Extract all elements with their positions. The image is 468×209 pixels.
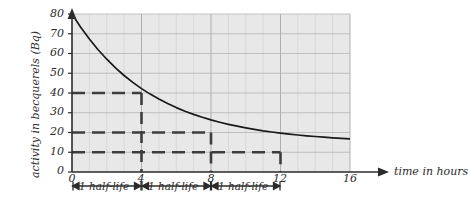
- y-axis-title: activity in becquerels (Bq): [30, 31, 41, 178]
- y-tick-60: 60: [42, 47, 64, 58]
- y-tick-40: 40: [42, 87, 64, 98]
- x-tick-12: 12: [270, 173, 290, 184]
- y-tick-50: 50: [42, 67, 64, 78]
- half-life-label-1: 1 half-life: [79, 181, 129, 192]
- half-life-label-2: 1 half-life: [148, 181, 198, 192]
- y-tick-30: 30: [42, 106, 64, 117]
- y-tick-70: 70: [42, 28, 64, 39]
- y-tick-0: 0: [42, 165, 64, 176]
- x-axis-title: time in hours: [394, 166, 468, 177]
- y-tick-10: 10: [42, 146, 64, 157]
- y-tick-20: 20: [42, 126, 64, 137]
- x-axis-arrow: [378, 168, 389, 177]
- y-tick-80: 80: [42, 8, 64, 19]
- half-life-label-3: 1 half-life: [218, 181, 268, 192]
- x-tick-16: 16: [340, 173, 360, 184]
